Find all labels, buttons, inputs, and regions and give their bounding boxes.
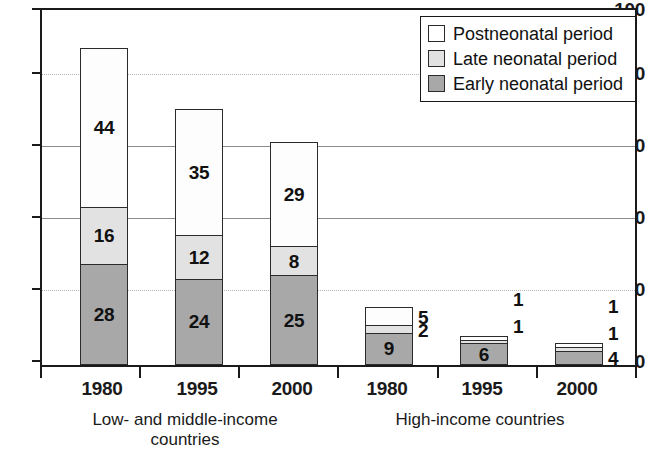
- bar-segment-early[interactable]: 24: [175, 279, 223, 365]
- bar-lowmid-1980[interactable]: 28 16 44: [80, 48, 128, 365]
- gridline-40: [42, 218, 635, 219]
- x-tick-label-high-2000: 2000: [537, 379, 617, 398]
- x-tick-mark-2: [238, 367, 240, 378]
- legend-label: Postneonatal period: [453, 25, 613, 43]
- bar-segment-label: 35: [189, 163, 210, 182]
- bar-segment-early[interactable]: 9: [365, 333, 413, 365]
- bar-lowmid-1995[interactable]: 24 12 35: [175, 109, 223, 365]
- legend-item-post[interactable]: Postneonatal period: [428, 21, 629, 46]
- bar-segment-label: 12: [189, 248, 210, 267]
- bar-segment-late[interactable]: 8: [270, 246, 318, 275]
- bar-segment-label: 6: [479, 345, 489, 364]
- bar-segment-label: 28: [94, 305, 115, 324]
- bar-lowmid-2000[interactable]: 25 8 29: [270, 142, 318, 365]
- bar-segment-label: 1: [513, 317, 523, 336]
- bar-segment-label: 9: [384, 339, 394, 358]
- x-tick-mark-1: [139, 367, 141, 378]
- legend-swatch-late-icon: [428, 50, 445, 67]
- x-tick-label-high-1995: 1995: [442, 379, 522, 398]
- gridline-60: [42, 146, 635, 147]
- bar-segment-late[interactable]: 12: [175, 235, 223, 278]
- bar-segment-early[interactable]: 28: [80, 264, 128, 365]
- group-caption-line1: Low- and middle-income: [55, 410, 315, 430]
- bar-segment-post[interactable]: 5: [365, 307, 413, 325]
- bar-segment-label: 29: [284, 185, 305, 204]
- bar-segment-late[interactable]: 1: [460, 340, 508, 344]
- bar-segment-label: 1: [513, 289, 523, 308]
- bar-segment-post[interactable]: 35: [175, 109, 223, 235]
- x-tick-label-lowmid-1980: 1980: [62, 379, 142, 398]
- group-caption-high-income: High-income countries: [350, 410, 610, 430]
- bar-segment-label: 1: [608, 325, 618, 344]
- bar-segment-label: 4: [608, 348, 618, 367]
- bar-segment-label: 5: [418, 307, 428, 326]
- bar-segment-early[interactable]: 6: [460, 343, 508, 365]
- x-tick-label-high-1980: 1980: [347, 379, 427, 398]
- bar-segment-post[interactable]: 1: [460, 336, 508, 340]
- group-caption-line1: High-income countries: [350, 410, 610, 430]
- bar-segment-post[interactable]: 44: [80, 48, 128, 206]
- x-tick-label-lowmid-1995: 1995: [157, 379, 237, 398]
- legend-item-early[interactable]: Early neonatal period: [428, 71, 629, 96]
- bar-segment-label: 24: [189, 312, 210, 331]
- bar-segment-late[interactable]: 1: [555, 347, 603, 351]
- x-tick-label-lowmid-2000: 2000: [252, 379, 332, 398]
- group-caption-line2: countries: [55, 430, 315, 450]
- bar-segment-label: 25: [284, 311, 305, 330]
- bar-segment-label: 1: [608, 296, 618, 315]
- bar-segment-post[interactable]: 29: [270, 142, 318, 246]
- legend-swatch-early-icon: [428, 75, 445, 92]
- legend-item-late[interactable]: Late neonatal period: [428, 46, 629, 71]
- bar-segment-late[interactable]: 2: [365, 325, 413, 332]
- legend-label: Early neonatal period: [453, 75, 623, 93]
- legend-swatch-post-icon: [428, 25, 445, 42]
- x-tick-mark-6: [635, 367, 637, 378]
- plot-area: 28 16 44 24 12 35 25: [40, 8, 637, 367]
- bar-high-1995[interactable]: 6 1 1: [460, 336, 508, 365]
- bar-high-2000[interactable]: 4 1 1: [555, 343, 603, 365]
- gridline-20: [42, 290, 635, 291]
- bar-segment-late[interactable]: 16: [80, 207, 128, 265]
- legend-label: Late neonatal period: [453, 50, 617, 68]
- bar-segment-early[interactable]: 25: [270, 275, 318, 365]
- bar-segment-label: 8: [289, 252, 299, 271]
- bar-segment-early[interactable]: 4: [555, 351, 603, 365]
- x-tick-mark-5: [536, 367, 538, 378]
- bar-high-1980[interactable]: 9 2 5: [365, 307, 413, 365]
- bar-segment-label: 16: [94, 226, 115, 245]
- bar-segment-label: 44: [94, 118, 115, 137]
- stacked-bar-chart: 100 80 60 40 20 0 28 16 44: [0, 0, 645, 453]
- bar-segment-post[interactable]: 1: [555, 343, 603, 347]
- x-tick-mark-4: [437, 367, 439, 378]
- group-caption-low-middle-income: Low- and middle-income countries: [55, 410, 315, 450]
- legend: Postneonatal period Late neonatal period…: [420, 16, 636, 102]
- x-tick-mark-0: [40, 367, 42, 378]
- x-tick-mark-3: [337, 367, 339, 378]
